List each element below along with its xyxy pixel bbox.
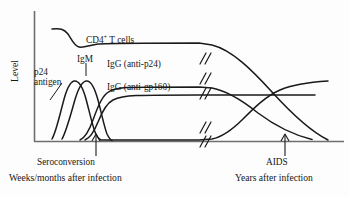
axis-group [34,11,344,142]
hiv-infection-course-figure: Level CD4+ T cells IgM IgG (anti-p24) Ig… [0,0,349,197]
y-axis-label: Level [10,48,20,94]
event-arrows [92,134,289,156]
p24-label-line-2: antigen [34,78,61,88]
aids-tick-label: AIDS [266,158,288,168]
series-label-cd4-t-cells: CD4+ T cells [86,36,134,46]
x-axis-label-right: Years after infection [235,173,313,183]
series-label-igg-anti-p24: IgG (anti-p24) [107,60,161,70]
axis-break-marks [200,53,211,147]
curve-igm [62,81,112,141]
series-label-igg-anti-gp160: IgG (anti-gp160) [107,83,170,93]
cd4-suffix: T cells [107,35,134,45]
p24-label-line-1: p24 [34,67,48,77]
series-label-igm: IgM [77,55,93,65]
x-axis-label-left: Weeks/months after infection [9,173,122,183]
series-label-p24-antigen: p24 antigen [34,68,61,88]
cd4-prefix: CD4 [86,35,104,45]
aids-arrow [281,134,289,156]
seroconversion-tick-label: Seroconversion [37,158,95,168]
